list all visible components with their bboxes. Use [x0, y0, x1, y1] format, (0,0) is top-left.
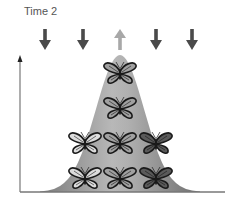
down-arrow-icon: [39, 29, 51, 50]
selection-arrows: [39, 29, 198, 50]
down-arrow-icon: [186, 29, 198, 50]
y-axis-arrow-icon: [18, 55, 23, 62]
selection-diagram: [0, 0, 241, 206]
down-arrow-icon: [150, 29, 162, 50]
up-arrow-icon: [114, 29, 126, 50]
down-arrow-icon: [77, 29, 89, 50]
